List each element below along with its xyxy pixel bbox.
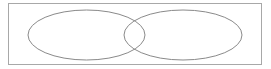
set-a-ellipse (28, 10, 145, 60)
diagram-frame (9, 4, 262, 65)
venn-diagram (0, 0, 271, 69)
set-b-ellipse (124, 10, 242, 60)
